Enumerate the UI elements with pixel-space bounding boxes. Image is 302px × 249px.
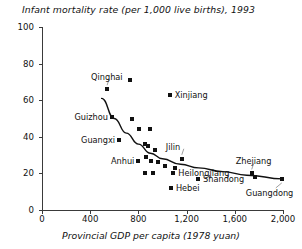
x-tick-label: 2,000 xyxy=(263,214,302,224)
x-tick-mark xyxy=(138,211,139,214)
y-tick-label: 40 xyxy=(8,132,34,142)
data-point xyxy=(110,115,114,119)
x-tick-label: 400 xyxy=(70,214,110,224)
data-point xyxy=(137,127,141,131)
data-point xyxy=(149,159,153,163)
x-tick-mark xyxy=(283,211,284,214)
y-tick-label: 80 xyxy=(8,59,34,69)
data-point-label: Zhejiang xyxy=(236,156,272,166)
data-point-label: Guangxi xyxy=(81,135,115,145)
x-tick-mark xyxy=(235,211,236,214)
data-point xyxy=(180,157,184,161)
data-point xyxy=(156,160,160,164)
data-point xyxy=(253,175,257,179)
data-point-label: Guizhou xyxy=(74,112,108,122)
chart-title: Infant mortality rate (per 1,000 live bi… xyxy=(22,4,255,15)
y-tick-label: 60 xyxy=(8,95,34,105)
data-point xyxy=(130,117,134,121)
x-tick-mark xyxy=(187,211,188,214)
y-tick-label: 100 xyxy=(8,22,34,32)
data-point xyxy=(144,155,148,159)
data-point-label: Guangdong xyxy=(246,188,294,198)
data-point xyxy=(163,164,167,168)
y-tick-label: 20 xyxy=(8,168,34,178)
data-point-label: Anhui xyxy=(111,156,134,166)
data-point xyxy=(169,186,173,190)
x-tick-label: 800 xyxy=(118,214,158,224)
data-point xyxy=(280,177,284,181)
data-point xyxy=(146,144,150,148)
x-axis-title: Provincial GDP per capita (1978 yuan) xyxy=(0,230,302,241)
x-axis-line xyxy=(42,210,284,211)
data-point xyxy=(105,87,109,91)
plot-area: QinghaiGuizhouGuangxiXinjiangAnhuiJilinH… xyxy=(42,27,283,210)
data-point xyxy=(151,171,155,175)
x-tick-mark xyxy=(90,211,91,214)
data-point xyxy=(143,171,147,175)
data-point xyxy=(128,78,132,82)
data-point xyxy=(148,127,152,131)
x-tick-label: 1,600 xyxy=(215,214,255,224)
data-point-label: Hebei xyxy=(176,183,200,193)
data-point xyxy=(153,148,157,152)
x-tick-mark xyxy=(42,211,43,214)
data-point-label: Jilin xyxy=(166,142,180,152)
data-point xyxy=(117,138,121,142)
data-point-label: Xinjiang xyxy=(175,90,208,100)
scatter-chart: Infant mortality rate (per 1,000 live bi… xyxy=(0,0,302,249)
data-point xyxy=(171,171,175,175)
data-point xyxy=(173,166,177,170)
x-tick-label: 0 xyxy=(22,214,62,224)
data-point xyxy=(136,159,140,163)
data-point-label: Qinghai xyxy=(91,72,123,82)
x-tick-label: 1,200 xyxy=(167,214,207,224)
data-point-label: Shandong xyxy=(203,174,244,184)
data-point xyxy=(168,93,172,97)
